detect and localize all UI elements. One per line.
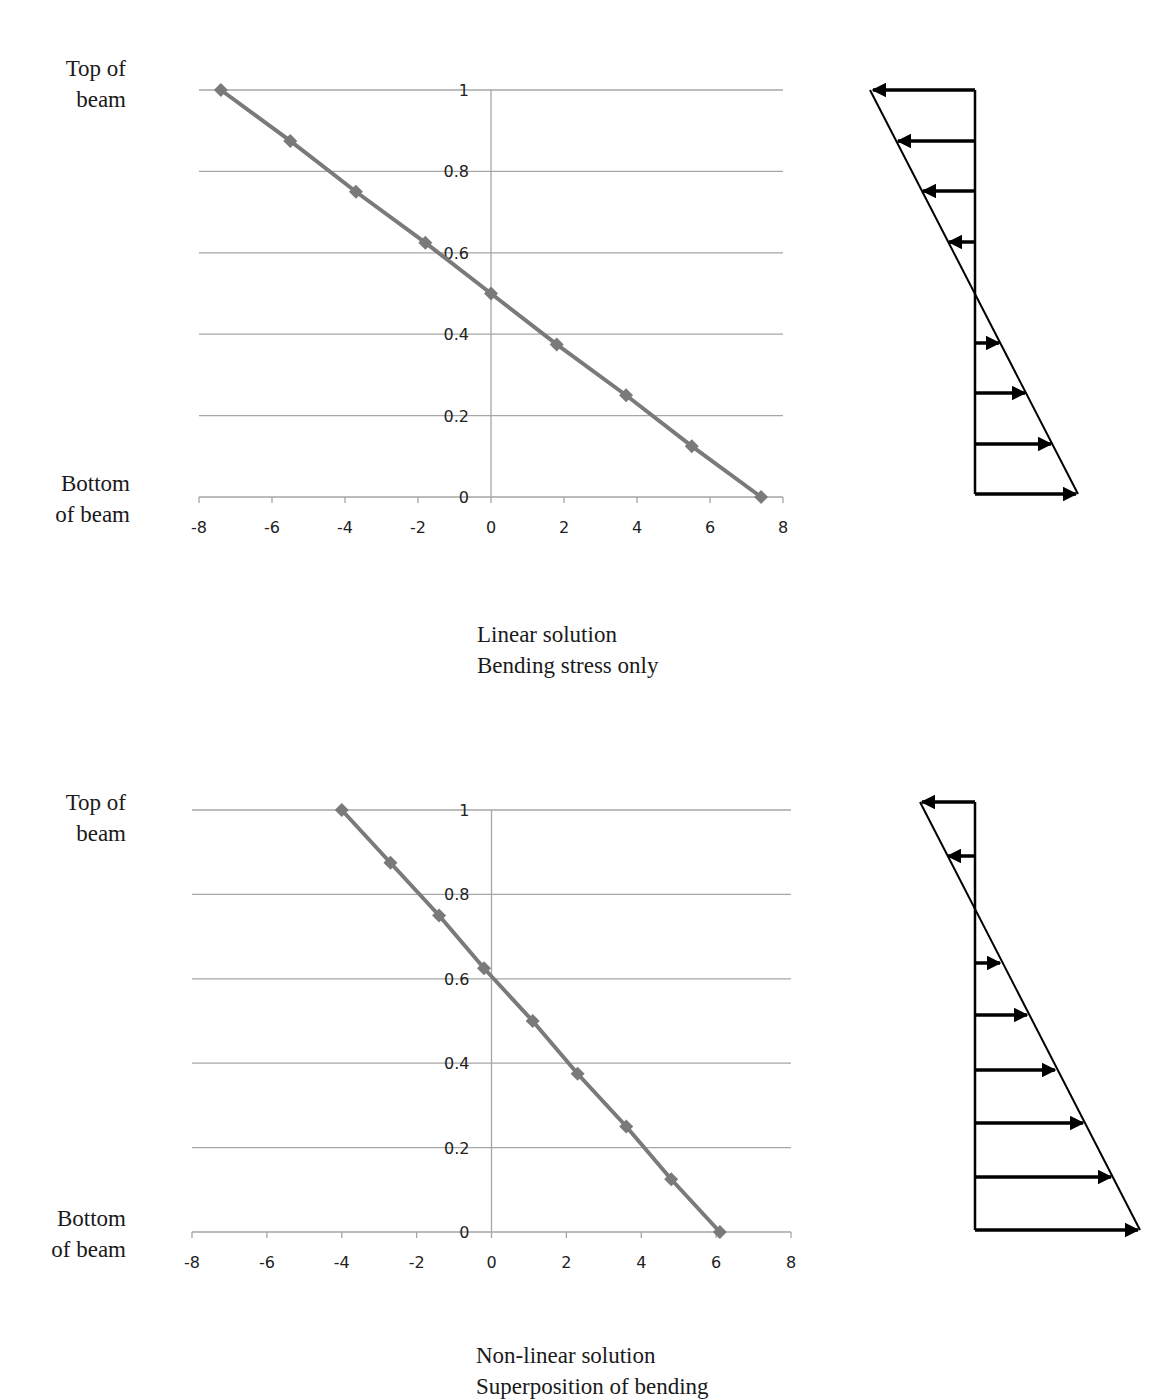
- x-tick-label: -8: [184, 1253, 200, 1272]
- x-tick-label: 8: [786, 1253, 796, 1272]
- y-tick-label: 0.2: [444, 407, 469, 426]
- x-tick-label: 0: [486, 1253, 496, 1272]
- y-tick-label: 0.4: [444, 1054, 469, 1073]
- stress-profile-line: [920, 802, 1140, 1230]
- y-tick-label: 0.8: [444, 162, 469, 181]
- x-tick-label: -2: [410, 518, 426, 537]
- x-tick-label: -8: [191, 518, 207, 537]
- x-tick-label: -6: [259, 1253, 275, 1272]
- x-tick-label: 4: [632, 518, 642, 537]
- chart-linear: 00.20.40.60.81-8-6-4-202468: [191, 81, 788, 537]
- x-tick-label: 0: [486, 518, 496, 537]
- y-tick-label: 1: [459, 81, 469, 100]
- stress-diagram-nonlinear: [920, 802, 1140, 1230]
- y-tick-label: 1: [459, 801, 469, 820]
- x-tick-label: -6: [264, 518, 280, 537]
- y-tick-label: 0.4: [444, 325, 469, 344]
- stress-diagram-linear: [870, 90, 1078, 494]
- y-tick-label: 0.8: [444, 885, 469, 904]
- x-tick-label: 8: [778, 518, 788, 537]
- x-tick-label: 4: [636, 1253, 646, 1272]
- x-tick-label: -4: [334, 1253, 350, 1272]
- chart-nonlinear: 00.20.40.60.81-8-6-4-202468: [184, 801, 796, 1272]
- x-tick-label: 2: [561, 1253, 571, 1272]
- y-tick-label: 0.6: [444, 970, 469, 989]
- x-tick-label: 2: [559, 518, 569, 537]
- figure-canvas: 00.20.40.60.81-8-6-4-202468 00.20.40.60.…: [0, 0, 1170, 1400]
- y-tick-label: 0: [459, 488, 469, 507]
- x-tick-label: 6: [705, 518, 715, 537]
- x-tick-label: -2: [409, 1253, 425, 1272]
- x-tick-label: 6: [711, 1253, 721, 1272]
- y-tick-label: 0.2: [444, 1139, 469, 1158]
- x-tick-label: -4: [337, 518, 353, 537]
- y-tick-label: 0: [459, 1223, 469, 1242]
